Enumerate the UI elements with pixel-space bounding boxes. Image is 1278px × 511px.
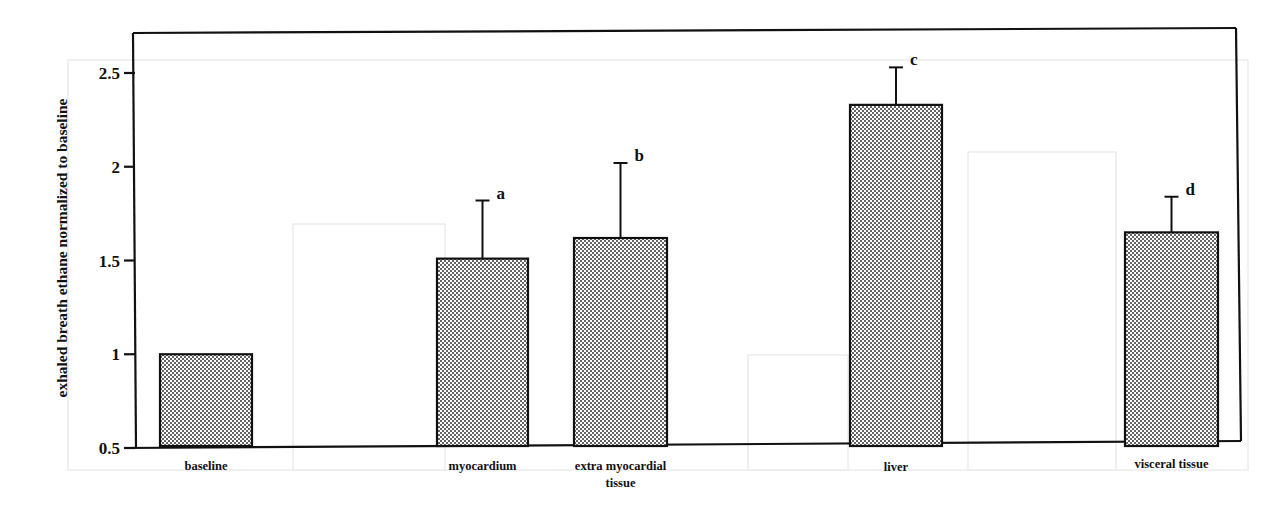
y-tick-label: 2 [112,158,121,177]
y-axis-label: exhaled breath ethane normalized to base… [53,98,70,397]
x-axis-labels: baselinemyocardiumextra myocardialtissue… [184,457,1208,490]
x-tick-label: liver [884,460,909,474]
y-tick-label: 0.5 [99,439,120,458]
bar-liver: c [850,50,942,446]
bar-visceral-tissue: d [1125,180,1218,446]
y-tick-label: 2.5 [99,64,120,83]
significance-label: a [497,184,506,203]
bar-chart: 0.511.522.5 exhaled breath ethane normal… [0,0,1278,511]
x-tick-label: myocardium [448,459,517,473]
significance-label: d [1186,180,1196,199]
bar-baseline [160,354,252,446]
bars: abcd [160,50,1218,446]
significance-label: c [910,50,918,69]
x-tick-label: visceral tissue [1135,457,1209,471]
x-tick-label: tissue [606,476,636,490]
bar-extra-myocardial-tissue: b [574,146,667,446]
x-tick-label: baseline [184,459,228,473]
y-tick-label: 1 [112,345,121,364]
x-tick-label: extra myocardial [575,459,667,473]
bar-myocardium: a [437,184,528,447]
significance-label: b [635,146,644,165]
y-axis: 0.511.522.5 [99,64,135,458]
y-tick-label: 1.5 [99,252,120,271]
